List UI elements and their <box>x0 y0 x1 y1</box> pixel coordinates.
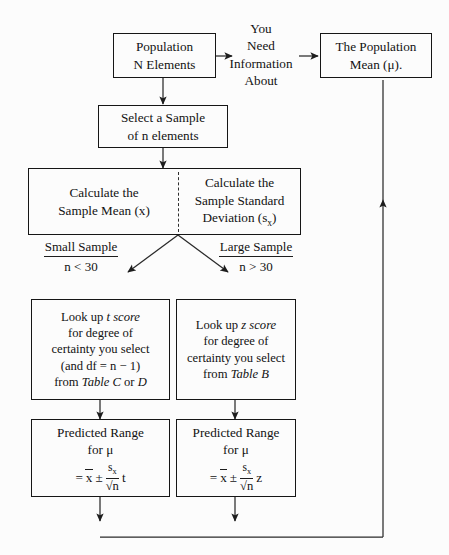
node-population-line2: N Elements <box>134 56 196 73</box>
predicted-t-numerator: sx <box>108 462 117 478</box>
predicted-z-statistic: z <box>256 469 262 486</box>
lookup-t-line4: (and df = n − 1) <box>61 358 141 374</box>
flowchart-canvas: Population N Elements You Need Informati… <box>0 0 449 555</box>
node-lookup-t-score: Look up t score for degree of certainty … <box>31 299 170 400</box>
node-select-sample: Select a Sample of n elements <box>98 105 228 148</box>
lookup-t-line2: for degree of <box>68 325 133 341</box>
large-sample-label: Large Sample <box>219 238 293 257</box>
node-calculate-sd: Calculate the Sample Standard Deviation … <box>179 174 300 228</box>
node-predicted-range-t: Predicted Range for μ = x ± sx √n t <box>31 419 170 497</box>
predicted-t-fraction: sx √n <box>106 462 119 492</box>
lookup-z-line4-italic: Table B <box>231 367 269 381</box>
lookup-t-line5: from Table C or D <box>54 374 147 390</box>
predicted-z-mu: μ <box>242 442 249 457</box>
predicted-t-pm: ± <box>95 469 102 486</box>
arrow-branch-small-sample <box>128 235 178 272</box>
label-large-sample: Large Sample n > 30 <box>206 238 306 275</box>
predicted-t-mu: μ <box>106 442 113 457</box>
predicted-t-line2-a: for <box>88 442 107 457</box>
lookup-z-line2: for degree of <box>203 333 268 349</box>
predicted-z-fraction: sx √n <box>240 462 253 492</box>
node-population-line1: Population <box>136 38 193 55</box>
predicted-t-denominator: √n <box>106 478 119 493</box>
lookup-z-line4: from Table B <box>203 366 269 382</box>
large-sample-condition: n > 30 <box>206 258 306 275</box>
node-select-sample-line2: of n elements <box>127 127 198 144</box>
lookup-t-line5-b: or <box>121 375 138 389</box>
predicted-t-line1: Predicted Range <box>57 424 144 441</box>
node-population: Population N Elements <box>113 33 216 78</box>
need-info-line4: About <box>222 72 300 89</box>
lookup-t-line1-italic: t score <box>107 310 140 324</box>
predicted-z-line2-a: for <box>223 442 242 457</box>
calc-sd-line3: Deviation (sx) <box>203 209 277 229</box>
node-select-sample-line1: Select a Sample <box>121 109 205 126</box>
calc-mean-line1: Calculate the <box>69 184 138 201</box>
node-population-mean-line2: Mean (μ). <box>350 56 402 73</box>
calc-sd-line3-text: Deviation (s <box>203 210 268 225</box>
node-population-mean: The Population Mean (μ). <box>320 33 432 78</box>
node-lookup-z-score: Look up z score for degree of certainty … <box>176 299 296 400</box>
small-sample-condition: n < 30 <box>28 258 134 275</box>
predicted-z-numerator: sx <box>242 462 251 478</box>
lookup-t-line5-italic2: D <box>138 375 147 389</box>
calculate-box-divider <box>178 172 179 232</box>
need-info-line3: Information <box>222 55 300 72</box>
lookup-z-line3: certainty you select <box>187 350 285 366</box>
predicted-z-line2: for μ <box>223 441 249 458</box>
predicted-t-formula: = x ± sx √n t <box>75 462 125 492</box>
need-info-line1: You <box>222 20 300 37</box>
predicted-t-xbar: x <box>86 469 93 486</box>
predicted-z-formula: = x ± sx √n z <box>210 462 262 492</box>
calc-mean-line2: Sample Mean (x) <box>58 202 150 219</box>
predicted-t-line2: for μ <box>88 441 114 458</box>
node-population-mean-line1: The Population <box>336 38 417 55</box>
predicted-t-statistic: t <box>122 469 126 486</box>
lookup-z-line4-a: from <box>203 367 231 381</box>
node-predicted-range-z: Predicted Range for μ = x ± sx √n z <box>176 419 296 497</box>
predicted-z-num-sub: x <box>247 467 251 476</box>
predicted-z-eq: = <box>210 469 217 486</box>
predicted-z-line1: Predicted Range <box>193 424 280 441</box>
calc-sd-line1: Calculate the <box>205 174 274 191</box>
lookup-t-line5-italic: Table C <box>82 375 121 389</box>
predicted-t-num-sub: x <box>112 467 116 476</box>
lookup-t-line1: Look up t score <box>61 309 140 325</box>
lookup-z-line1-italic: z score <box>241 318 276 332</box>
predicted-z-xbar: x <box>220 469 227 486</box>
need-info-line2: Need <box>222 37 300 54</box>
predicted-t-eq: = <box>75 469 82 486</box>
lookup-t-line3: certainty you select <box>52 341 150 357</box>
label-need-information: You Need Information About <box>222 20 300 90</box>
node-calculate-mean: Calculate the Sample Mean (x) <box>29 184 179 218</box>
predicted-z-denominator: √n <box>240 478 253 493</box>
predicted-z-pm: ± <box>230 469 237 486</box>
lookup-z-line1-a: Look up <box>196 318 241 332</box>
small-sample-label: Small Sample <box>44 238 119 257</box>
lookup-z-line1: Look up z score <box>196 317 276 333</box>
lookup-t-line1-a: Look up <box>61 310 106 324</box>
calc-sd-line2: Sample Standard <box>195 192 285 209</box>
node-calculate-split: Calculate the Sample Mean (x) Calculate … <box>28 168 301 235</box>
label-small-sample: Small Sample n < 30 <box>28 238 134 275</box>
lookup-t-line5-a: from <box>54 375 82 389</box>
calc-sd-line3-end: ) <box>272 210 276 225</box>
